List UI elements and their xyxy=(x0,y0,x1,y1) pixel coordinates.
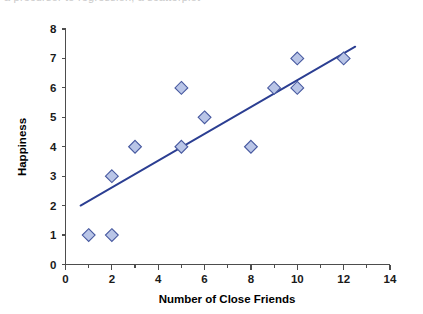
data-point-1-1 xyxy=(82,229,95,242)
y-tick-label-2: 2 xyxy=(50,200,56,212)
y-axis-title: Happiness xyxy=(16,118,28,176)
x-tick-label-10: 10 xyxy=(291,273,304,285)
y-tick-label-7: 7 xyxy=(50,52,56,64)
y-axis-tick-labels: 012345678 xyxy=(50,23,57,271)
data-point-3-4 xyxy=(129,140,142,153)
data-point-8-4 xyxy=(245,140,258,153)
x-axis-tick-labels: 02468101214 xyxy=(62,273,397,285)
data-point-5-6 xyxy=(175,81,188,94)
x-tick-label-14: 14 xyxy=(384,273,397,285)
data-point-2-3 xyxy=(105,170,118,183)
data-markers-group xyxy=(82,52,350,241)
x-tick-label-6: 6 xyxy=(201,273,207,285)
y-tick-label-0: 0 xyxy=(50,259,56,271)
y-tick-label-3: 3 xyxy=(50,170,56,182)
data-point-6-5 xyxy=(198,111,211,124)
trendline xyxy=(81,47,356,206)
x-tick-label-4: 4 xyxy=(155,273,162,285)
data-point-5-4 xyxy=(175,140,188,153)
data-point-12-7 xyxy=(337,52,350,65)
data-point-10-7 xyxy=(291,52,304,65)
x-tick-label-8: 8 xyxy=(248,273,255,285)
y-tick-label-1: 1 xyxy=(50,229,57,241)
x-axis-ticks xyxy=(66,265,391,270)
y-tick-label-4: 4 xyxy=(50,141,57,153)
x-tick-label-12: 12 xyxy=(337,273,350,285)
data-point-9-6 xyxy=(268,81,281,94)
x-tick-label-0: 0 xyxy=(62,273,68,285)
x-tick-label-2: 2 xyxy=(109,273,115,285)
axes-group xyxy=(65,29,390,265)
plot-canvas: 012345678 02468101214 Number of Close Fr… xyxy=(0,0,423,314)
data-point-2-1 xyxy=(105,229,118,242)
y-tick-label-8: 8 xyxy=(50,23,57,35)
x-axis-title: Number of Close Friends xyxy=(159,293,296,305)
y-tick-label-5: 5 xyxy=(50,111,57,123)
y-tick-label-6: 6 xyxy=(50,82,56,94)
trendline-group xyxy=(81,47,356,206)
scatter-plot-figure: a precursor to regression, a scatterplot… xyxy=(0,0,423,314)
